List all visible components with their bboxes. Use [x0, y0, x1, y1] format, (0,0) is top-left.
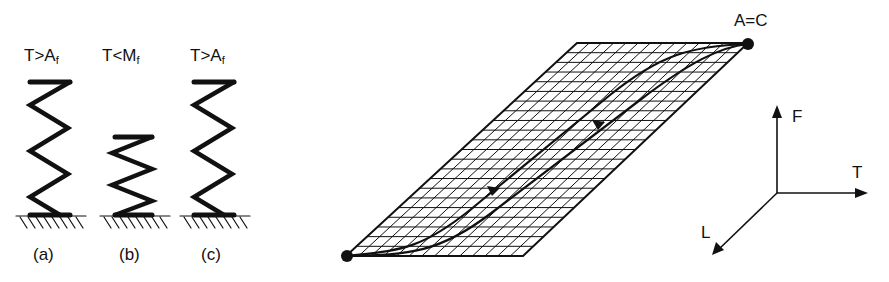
point-a-c-label: A=C: [734, 12, 768, 29]
axis-t-arrow-icon: [855, 188, 868, 198]
condition-text: T<M: [102, 46, 136, 65]
axis-l-arrow-icon: [712, 242, 724, 255]
spring-c: [180, 82, 250, 228]
axis-f-label: F: [792, 108, 802, 125]
ground-hatch-a: [16, 216, 86, 228]
condition-subscript: f: [56, 54, 59, 66]
condition-subscript: f: [222, 54, 225, 66]
spring-b: [100, 137, 170, 228]
spring-b-condition: T<Mf: [102, 47, 140, 66]
condition-text: T>A: [190, 46, 222, 65]
condition-subscript: f: [136, 54, 139, 66]
spring-c-caption: (c): [201, 246, 221, 263]
axis-f-arrow-icon: [772, 105, 782, 118]
point-start: [341, 250, 353, 262]
diagram-canvas: [0, 0, 889, 282]
axis-l-label: L: [701, 224, 710, 241]
spring-a-condition: T>Af: [24, 47, 59, 66]
ground-hatch-c: [180, 216, 250, 228]
axis-t-label: T: [852, 164, 862, 181]
ground-hatch-b: [100, 216, 170, 228]
axes-triad: [717, 112, 861, 251]
spring-c-condition: T>Af: [190, 47, 225, 66]
spring-a: [16, 82, 86, 228]
spring-b-caption: (b): [119, 246, 140, 263]
grid-surface: [346, 43, 748, 256]
point-a-c: [742, 38, 754, 50]
spring-a-caption: (a): [33, 246, 54, 263]
condition-text: T>A: [24, 46, 56, 65]
